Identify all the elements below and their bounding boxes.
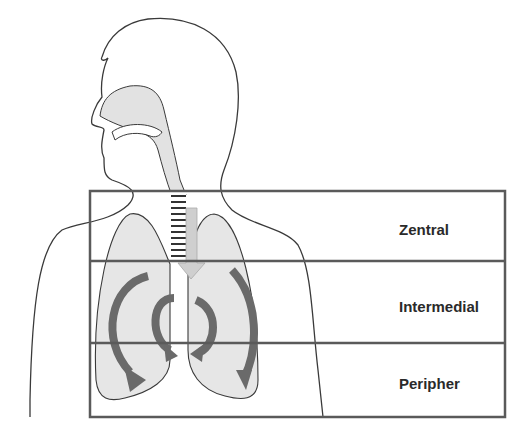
zone-label-central: Zentral bbox=[399, 221, 449, 238]
zone-label-intermediate: Intermedial bbox=[399, 298, 479, 315]
zone-label-peripheral: Peripher bbox=[399, 375, 460, 392]
airway-upper bbox=[100, 86, 186, 196]
